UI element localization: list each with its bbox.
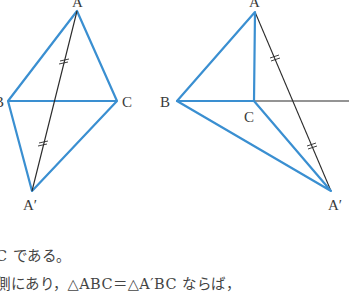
body-text-line-2: 側にあり，△ABC＝△A′BC ならば， xyxy=(0,272,240,293)
right-label-A: A xyxy=(249,0,260,10)
left-label-B: B xyxy=(0,94,4,110)
right-label-B: B xyxy=(160,94,170,110)
right-label-A-prime: A′ xyxy=(328,197,342,213)
right-figure: A B C A′ xyxy=(160,0,349,213)
right-label-C: C xyxy=(244,109,254,125)
left-label-A-prime: A′ xyxy=(23,197,37,213)
body-text-line-1: C である。 xyxy=(0,244,71,265)
geometry-figures: A B C A′ A B C A′ xyxy=(0,0,349,235)
left-figure: A B C A′ xyxy=(0,0,132,213)
left-label-C: C xyxy=(122,94,132,110)
left-equal-tick-marks xyxy=(38,59,69,146)
right-triangle-ABC xyxy=(177,12,255,101)
left-label-A: A xyxy=(72,0,83,10)
